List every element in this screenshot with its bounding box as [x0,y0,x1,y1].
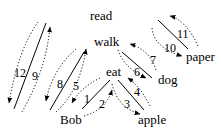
step-label-4: 4 [134,85,140,99]
word-paper: paper [186,49,216,64]
step-label-6: 6 [134,65,140,79]
word-read: read [90,8,113,23]
step-label-12: 12 [14,66,26,80]
step-label-8: 8 [57,77,63,91]
dependency-traversal-diagram: read walk eat dog paper Bob apple [0,0,221,134]
step-label-11: 11 [177,27,189,41]
traversal-arrow-6 [118,50,146,78]
step-label-2: 2 [99,97,105,111]
word-walk: walk [94,34,120,49]
step-label-3: 3 [124,97,130,111]
word-apple: apple [138,112,166,127]
traversal-arrow-12 [9,22,38,103]
traversal-arrow-8 [46,49,76,101]
diagram-canvas: read walk eat dog paper Bob apple [0,0,221,134]
edge-eat-apple [118,80,144,110]
step-label-7: 7 [150,53,156,67]
word-dog: dog [158,72,178,87]
step-label-5: 5 [73,79,79,93]
step-label-10: 10 [164,41,176,55]
word-eat: eat [106,64,122,79]
step-label-1: 1 [84,92,90,106]
step-label-9: 9 [32,69,38,83]
word-bob: Bob [60,112,82,127]
